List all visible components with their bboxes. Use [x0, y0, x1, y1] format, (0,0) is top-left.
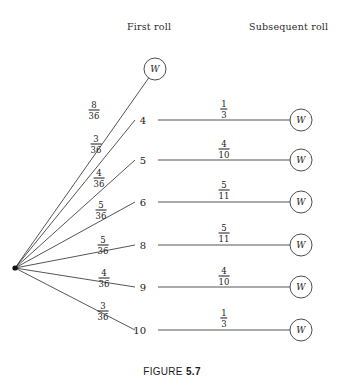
root-node-dot [12, 265, 17, 270]
stage-two-probability-five: 410 [219, 140, 230, 159]
stage-one-probability-ten: 336 [98, 302, 109, 321]
stage-one-probability-four: 336 [91, 135, 102, 154]
stage-one-node-label-nine[interactable]: 9 [140, 282, 146, 293]
stage-one-probability-win-denominator: 36 [89, 111, 100, 120]
stage-two-probability-eight-denominator: 11 [219, 234, 230, 243]
stage-two-probability-ten: 13 [220, 309, 227, 328]
stage-two-node-label-eight: W [296, 240, 305, 250]
stage-two-probability-four: 13 [220, 100, 227, 119]
stage-one-probability-four-denominator: 36 [91, 145, 102, 154]
stage-one-node-label-four[interactable]: 4 [140, 115, 146, 126]
stage-one-node-label-five[interactable]: 5 [140, 155, 146, 166]
stage-one-probability-five-denominator: 36 [94, 179, 105, 188]
stage-one-edge-win [15, 78, 149, 268]
stage-two-probability-nine: 410 [219, 267, 230, 286]
figure-caption-number: 5.7 [186, 366, 201, 377]
figure-caption-word: FIGURE [143, 366, 183, 377]
stage-two-probability-nine-numerator: 4 [219, 267, 230, 277]
stage-two-probability-six-numerator: 5 [219, 181, 230, 191]
stage-two-probability-four-denominator: 3 [220, 110, 227, 119]
figure-container: First roll Subsequent roll W836433654366… [0, 0, 344, 387]
stage-two-probability-eight: 511 [219, 224, 230, 243]
stage-two-node-label-four: W [296, 115, 305, 125]
stage-one-node-label-six[interactable]: 6 [140, 197, 146, 208]
stage-one-edge-group [15, 78, 149, 330]
stage-one-probability-five: 436 [94, 169, 105, 188]
stage-two-probability-five-denominator: 10 [219, 150, 230, 159]
stage-one-edge-five [15, 160, 135, 268]
stage-one-edge-six [15, 202, 135, 268]
stage-one-probability-nine-numerator: 4 [99, 269, 110, 279]
stage-two-probability-six: 511 [219, 181, 230, 200]
stage-one-node-label-win: W [150, 64, 159, 74]
stage-two-probability-ten-numerator: 1 [220, 309, 227, 319]
stage-one-probability-five-numerator: 4 [94, 169, 105, 179]
stage-one-probability-six: 536 [96, 201, 107, 220]
stage-one-probability-nine: 436 [99, 269, 110, 288]
stage-two-node-label-six: W [296, 197, 305, 207]
figure-caption: FIGURE 5.7 [0, 366, 344, 377]
stage-two-probability-four-numerator: 1 [220, 100, 227, 110]
stage-one-probability-eight-numerator: 5 [98, 236, 109, 246]
stage-two-probability-five-numerator: 4 [219, 140, 230, 150]
stage-one-probability-eight: 536 [98, 236, 109, 255]
stage-one-edge-eight [15, 245, 135, 268]
stage-one-probability-six-denominator: 36 [96, 211, 107, 220]
stage-one-probability-ten-numerator: 3 [98, 302, 109, 312]
stage-one-probability-ten-denominator: 36 [98, 312, 109, 321]
stage-one-probability-nine-denominator: 36 [99, 279, 110, 288]
stage-two-probability-nine-denominator: 10 [219, 277, 230, 286]
stage-one-probability-win-numerator: 8 [89, 101, 100, 111]
stage-two-node-label-five: W [296, 155, 305, 165]
stage-two-node-label-ten: W [296, 325, 305, 335]
stage-one-probability-four-numerator: 3 [91, 135, 102, 145]
stage-one-probability-eight-denominator: 36 [98, 246, 109, 255]
stage-two-probability-ten-denominator: 3 [220, 319, 227, 328]
stage-one-probability-six-numerator: 5 [96, 201, 107, 211]
stage-one-node-label-eight[interactable]: 8 [140, 240, 146, 251]
stage-one-edge-four [15, 120, 135, 268]
root-node-group [12, 265, 17, 270]
probability-tree-canvas [0, 0, 344, 387]
stage-one-probability-win: 836 [89, 101, 100, 120]
stage-two-node-label-nine: W [296, 282, 305, 292]
stage-two-probability-six-denominator: 11 [219, 191, 230, 200]
stage-two-probability-eight-numerator: 5 [219, 224, 230, 234]
stage-one-node-label-ten[interactable]: 10 [133, 325, 146, 336]
